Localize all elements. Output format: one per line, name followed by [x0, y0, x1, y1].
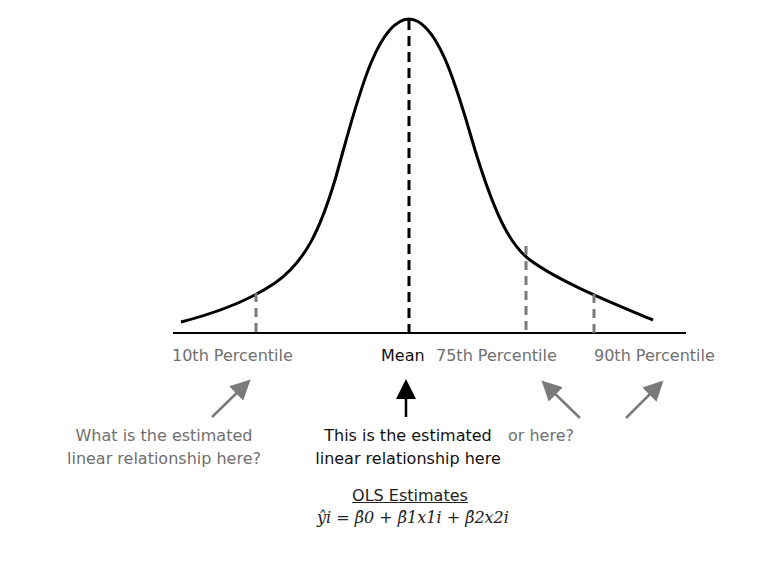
arrow-right1-icon	[545, 384, 580, 418]
mean-label: Mean	[381, 346, 425, 365]
left-annotation-line2: linear relationship here?	[28, 449, 300, 468]
ols-title: OLS Estimates	[310, 486, 510, 505]
arrow-right2-icon	[626, 384, 660, 418]
right-annotation: or here?	[508, 426, 574, 445]
density-curve	[181, 19, 653, 322]
ols-equation: ŷi = β̂0 + β̂1x1i + β̂2x2i	[268, 508, 558, 527]
arrow-left-icon	[212, 383, 247, 417]
p90-label: 90th Percentile	[594, 346, 715, 365]
center-annotation-line2: linear relationship here	[290, 449, 526, 468]
center-annotation-line1: This is the estimated	[290, 426, 526, 445]
p75-label: 75th Percentile	[436, 346, 557, 365]
p10-label: 10th Percentile	[172, 346, 293, 365]
left-annotation-line1: What is the estimated	[28, 426, 300, 445]
